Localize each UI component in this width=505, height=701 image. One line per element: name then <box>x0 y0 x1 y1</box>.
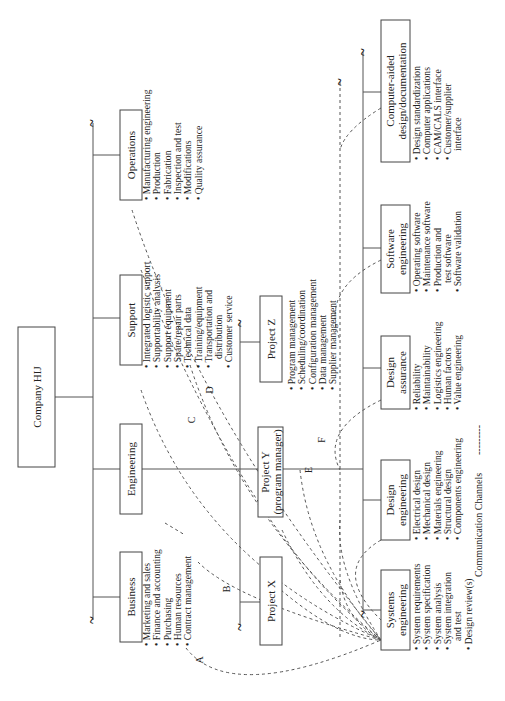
division-support-list: • Integrated logistic support• Supportab… <box>141 261 234 368</box>
project-y-label: Project Y <box>259 451 271 492</box>
software-engineering-list: • Operating software• Maintenance softwa… <box>411 201 463 292</box>
project-y-label: (program manager) <box>271 429 284 515</box>
design-assurance-label: assurance <box>396 351 408 394</box>
division-support-label: Support <box>125 303 137 338</box>
channel-label-f: F <box>316 437 327 443</box>
cad-documentation-label: design/documentation <box>396 42 408 140</box>
break-mark-icon: ~ <box>85 119 100 127</box>
division-operations: Operations <box>120 110 142 200</box>
systems-engineering-list-item: • Design review(s) <box>463 578 475 650</box>
systems-engineering-list: • System requirements• System specificat… <box>411 563 475 650</box>
division-engineering: Engineering <box>120 424 142 514</box>
project-x-label: Project X <box>265 580 277 622</box>
break-mark-icon: ~ <box>333 78 348 86</box>
software-engineering-list-item: • Software validation <box>452 211 463 292</box>
design-assurance-label: Design <box>384 356 396 388</box>
systems-engineering-label: Systems <box>384 592 396 629</box>
division-engineering-label: Engineering <box>125 442 137 496</box>
design-assurance-list: • Reliability• Maintainability• Logistic… <box>411 321 463 410</box>
break-mark-icon: ~ <box>85 616 100 624</box>
division-operations-list: • Manufacturing engineering• Production•… <box>141 89 204 200</box>
project-z-label: Project Z <box>265 318 277 359</box>
division-business-list-item: • Contract management <box>182 555 193 646</box>
channel-label-e: E <box>303 467 314 473</box>
systems-engineering: Systemsengineering <box>381 570 410 650</box>
break-mark-icon: ~ <box>356 48 371 56</box>
legend-label: Communication Channels <box>473 473 484 577</box>
break-mark-icon: ~ <box>233 623 248 631</box>
software-engineering: Softwareengineering <box>381 205 410 293</box>
software-engineering-label: Software <box>384 229 396 269</box>
division-business-list: • Marketing and sales• Finance and accou… <box>141 549 193 646</box>
design-assurance: Designassurance <box>381 336 410 409</box>
design-engineering-label: Design <box>384 484 396 516</box>
division-support: Support <box>120 275 142 365</box>
design-assurance-list-item: • Value engineering <box>452 335 463 410</box>
company-hij-box-label: Company HIJ <box>31 366 43 428</box>
project-y-list: • Program management• Scheduling/coordin… <box>286 279 338 390</box>
organization-chart: ~~~~~~~ Company HIJBusinessEngineeringSu… <box>0 0 505 701</box>
project-z: Project Z <box>260 296 282 382</box>
cad-documentation-label: Computer-aided <box>384 55 396 127</box>
channel-label-a: A <box>194 656 205 664</box>
division-operations-list-item: • Quality assurance <box>193 126 204 200</box>
systems-engineering-label: engineering <box>396 584 408 636</box>
channel-label-b: B <box>221 585 232 592</box>
project-y: Project Y(program manager) <box>258 427 284 517</box>
cad-documentation: Computer-aideddesign/documentation <box>381 20 410 162</box>
division-business-label: Business <box>125 577 137 616</box>
design-engineering-label: engineering <box>396 474 408 526</box>
division-business: Business <box>120 552 142 642</box>
legend-sample-line: --------- <box>473 425 484 455</box>
design-engineering-list-item: • Components engineering <box>452 438 463 540</box>
channel-label-c: C <box>186 416 197 423</box>
cad-documentation-list-item: interface <box>452 117 463 151</box>
cad-documentation-list: • Design standardization• Computer appli… <box>411 66 463 160</box>
division-operations-label: Operations <box>125 131 137 179</box>
design-engineering-list: • Electrical design• Mechanical design• … <box>411 438 463 540</box>
project-y-list-item: • Supplier management <box>327 300 338 390</box>
channel-label-d: D <box>204 386 215 393</box>
design-engineering: Designengineering <box>381 460 410 540</box>
software-engineering-label: engineering <box>396 223 408 275</box>
project-x: Project X <box>260 557 282 645</box>
break-mark-icon: ~ <box>233 319 248 327</box>
division-support-list-item: • Customer service <box>223 295 234 368</box>
company-hij-box: Company HIJ <box>18 327 55 467</box>
break-mark-icon: ~ <box>356 610 371 618</box>
